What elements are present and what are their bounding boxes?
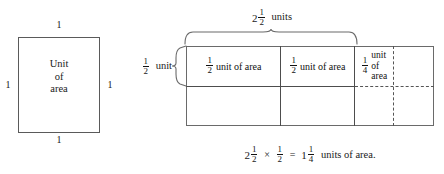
equation-times-operator: ×	[264, 149, 270, 160]
grid-horizontal-divider	[186, 86, 355, 87]
grid-dashed-horizontal-guide	[355, 86, 434, 87]
top-brace	[183, 29, 359, 45]
grid-cell-quarter-unit: 1 4 unit of area	[355, 46, 393, 86]
unit-square-bottom-length-label: 1	[18, 134, 100, 145]
grid-cell-3-line-2: of	[371, 61, 379, 72]
equation-result: 1 1 4	[301, 145, 315, 165]
grid-cell-3-line-3: area	[371, 71, 387, 82]
fraction-result: 1 4	[308, 145, 315, 165]
fraction-one-half-top: 1 2	[258, 8, 265, 28]
unit-square-inner-line-2: of	[18, 71, 100, 84]
fraction-one-quarter-cell3: 1 4	[362, 56, 369, 76]
grid-cell-half-unit-2: 1 2 unit of area	[281, 46, 354, 86]
grid-cell-2-text: unit of area	[300, 61, 346, 72]
unit-square-inner-label: Unit of area	[18, 58, 100, 96]
left-brace-units-word: unit	[156, 60, 172, 71]
top-brace-label: 2 1 2 units	[200, 8, 344, 28]
unit-square-inner-line-3: area	[18, 83, 100, 96]
equation-left-operand: 2 1 2	[244, 145, 258, 165]
fraction-one-half-cell1: 1 2	[206, 56, 213, 76]
left-brace	[171, 44, 187, 88]
unit-square-inner-line-1: Unit	[18, 58, 100, 71]
grid-cell-half-unit-1: 1 2 unit of area	[187, 46, 280, 86]
grid-cell-3-line-1: unit	[371, 50, 386, 61]
grid-cell-1-text: unit of area	[216, 61, 262, 72]
top-brace-units-word: units	[272, 11, 292, 22]
fraction-left-operand: 1 2	[251, 145, 258, 165]
left-brace-label: 1 2 unit	[126, 57, 172, 77]
fraction-one-half-cell2: 1 2	[290, 56, 297, 76]
equation-equals-operator: =	[290, 149, 296, 160]
unit-square-left-length-label: 1	[1, 79, 15, 90]
mixed-number-two-and-half: 2 1 2	[252, 8, 266, 28]
unit-square-top-length-label: 1	[18, 19, 100, 30]
area-model-figure: Unit of area 1 1 1 1 1 2 unit of area 1 …	[0, 0, 444, 174]
unit-square-right-length-label: 1	[103, 79, 117, 90]
fraction-right-operand: 1 2	[277, 145, 284, 165]
grid-cell-3-text: unit of area	[371, 50, 387, 82]
equation-trailing-text: units of area.	[321, 149, 376, 160]
fraction-one-half-left: 1 2	[143, 57, 150, 77]
equation-caption: 2 1 2 × 1 2 = 1 1 4 units of area.	[186, 145, 434, 165]
